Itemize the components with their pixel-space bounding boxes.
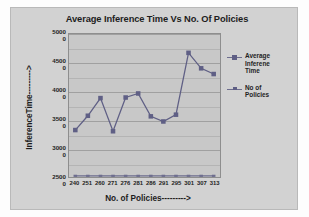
x-axis-tick: 271 <box>108 180 118 186</box>
series-marker <box>74 175 78 177</box>
series-marker <box>136 91 141 96</box>
series-marker <box>186 51 191 56</box>
y-axis-tick: 50000 <box>37 29 66 42</box>
chart-frame: Average Inference Time Vs No. Of Policie… <box>10 7 298 210</box>
legend-entry-no-of-policies[interactable]: No ofPolicies <box>227 84 299 99</box>
y-tick-text: 45000 <box>52 57 66 71</box>
series-marker <box>124 175 128 177</box>
series-marker <box>174 112 179 117</box>
y-tick-text: 25000 <box>52 173 66 187</box>
series-marker <box>111 175 115 177</box>
y-axis-title: InferenceTime---------> <box>25 38 34 178</box>
y-axis-tick-labels: 500004500040000350003000025000 <box>37 26 66 186</box>
legend-label-no-of-policies: No ofPolicies <box>245 84 299 99</box>
legend-label-average-inference-time: AverageInfereneTime <box>245 52 299 75</box>
series-marker <box>86 113 91 118</box>
series-marker <box>86 175 90 177</box>
y-tick-text: 35000 <box>52 115 66 129</box>
x-axis-tick: 251 <box>82 180 92 186</box>
y-tick-text: 30000 <box>52 144 66 158</box>
series-marker <box>73 128 78 133</box>
chart-legend: AverageInfereneTime No ofPolicies <box>227 52 299 108</box>
x-axis-tick: 276 <box>120 180 130 186</box>
series-marker <box>111 129 116 134</box>
y-axis-tick: 35000 <box>37 116 66 129</box>
chart-page: Average Inference Time Vs No. Of Policie… <box>0 0 309 217</box>
x-axis-tick: 240 <box>69 180 79 186</box>
x-axis-tick: 291 <box>159 180 169 186</box>
x-axis-title: No. of Policies---------> <box>68 194 228 203</box>
y-tick-text: 40000 <box>52 86 66 100</box>
x-axis-tick: 286 <box>146 180 156 186</box>
series-marker <box>99 175 103 177</box>
x-axis-tick: 307 <box>197 180 207 186</box>
y-tick-text: 50000 <box>52 28 66 42</box>
x-axis-tick: 313 <box>210 180 220 186</box>
series-marker <box>212 175 216 177</box>
legend-key-dash-marker-icon <box>227 86 242 93</box>
y-axis-tick: 25000 <box>37 174 66 187</box>
y-axis-tick: 40000 <box>37 87 66 100</box>
series-marker <box>123 95 128 100</box>
series-plot <box>69 34 220 177</box>
x-axis-tick: 260 <box>95 180 105 186</box>
x-axis-tick: 301 <box>184 180 194 186</box>
series-marker <box>149 175 153 177</box>
y-axis-tick: 45000 <box>37 58 66 71</box>
series-marker <box>162 175 166 177</box>
series-marker <box>199 175 203 177</box>
series-marker <box>136 175 140 177</box>
series-marker <box>161 119 166 124</box>
series-marker <box>98 96 103 101</box>
series-line <box>75 53 213 131</box>
x-axis-tick: 281 <box>133 180 143 186</box>
y-axis-tick: 30000 <box>37 145 66 158</box>
chart-title: Average Inference Time Vs No. Of Policie… <box>37 14 277 24</box>
legend-entry-average-inference-time[interactable]: AverageInfereneTime <box>227 52 299 75</box>
plot-area <box>68 33 221 178</box>
legend-key-square-marker-icon <box>227 54 242 61</box>
series-marker <box>174 175 178 177</box>
series-marker <box>149 114 154 119</box>
series-marker <box>187 175 191 177</box>
series-marker <box>199 66 204 71</box>
x-axis-tick: 295 <box>171 180 181 186</box>
series-marker <box>211 72 216 77</box>
x-axis-tick-labels: 240251260271276281286291295301307313 <box>68 180 221 192</box>
